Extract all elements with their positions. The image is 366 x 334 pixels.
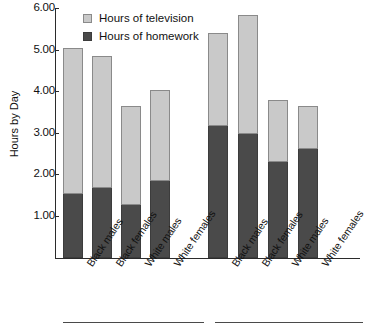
bar-segment-television-8 (298, 106, 318, 149)
bar-segment-television-5 (208, 33, 228, 127)
bar-segment-television-3 (121, 106, 141, 205)
stacked-bar-chart: Hours by Day 6.00 5.00 4.00 3.00 2.00 1.… (0, 0, 366, 334)
group-underline-1 (63, 322, 204, 323)
bar-segment-television-2 (92, 56, 112, 188)
bar-segment-television-1 (63, 48, 83, 194)
bar-segment-television-7 (268, 100, 288, 162)
y-tick-label-5: 5.00 (15, 43, 55, 55)
y-tick-label-4: 4.00 (15, 84, 55, 96)
bar-segment-television-4 (150, 90, 170, 182)
y-tick-label-1: 1.00 (15, 209, 55, 221)
y-tick-label-6: 6.00 (15, 1, 55, 13)
bar-5 (208, 33, 228, 258)
bar-1 (63, 48, 83, 258)
bar-segment-homework-5 (208, 126, 228, 258)
group-underline-2 (215, 322, 363, 323)
y-tick-label-2: 2.00 (15, 167, 55, 179)
y-tick-label-3: 3.00 (15, 126, 55, 138)
bar-segment-television-6 (238, 15, 258, 134)
bar-segment-homework-1 (63, 194, 83, 258)
